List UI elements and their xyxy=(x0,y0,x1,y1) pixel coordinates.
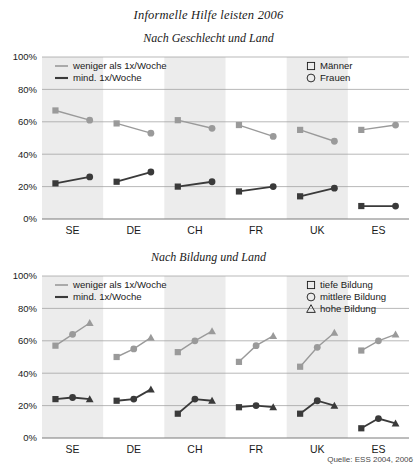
y-tick-label-40: 40% xyxy=(18,149,38,160)
y-tick-label-100: 100% xyxy=(13,51,38,62)
x-tick-label-FR: FR xyxy=(249,224,263,236)
data-point-low-ES-mittlere Bildung xyxy=(375,337,382,344)
x-tick-label-ES: ES xyxy=(371,443,385,455)
y-tick-label-0: 0% xyxy=(23,432,37,443)
data-point-low-CH-Frauen xyxy=(209,125,216,132)
data-point-high-ES-tiefe Bildung xyxy=(358,425,364,431)
data-point-low-SE-mittlere Bildung xyxy=(69,331,76,338)
series-line-low-ES xyxy=(361,125,395,130)
x-tick-label-UK: UK xyxy=(310,224,325,236)
series-line-low-FR xyxy=(239,125,273,136)
data-point-low-FR-tiefe Bildung xyxy=(236,359,242,365)
data-point-low-SE-Frauen xyxy=(86,117,93,124)
chart-education: 0%20%40%60%80%100%SEDECHFRUKESweniger al… xyxy=(0,269,417,459)
data-point-low-UK-Männer xyxy=(297,127,303,133)
data-point-high-ES-mittlere Bildung xyxy=(375,415,382,422)
chart-gender: 0%20%40%60%80%100%SEDECHFRUKESweniger al… xyxy=(0,50,417,240)
x-tick-label-ES: ES xyxy=(371,224,385,236)
data-point-high-UK-Männer xyxy=(297,193,303,199)
data-point-high-ES-Frauen xyxy=(392,203,399,210)
band-CH xyxy=(164,57,225,219)
data-point-high-ES-Männer xyxy=(358,203,364,209)
data-point-low-ES-hohe Bildung xyxy=(392,330,400,337)
data-point-high-SE-Männer xyxy=(52,180,58,186)
x-tick-label-SE: SE xyxy=(66,443,80,455)
y-tick-label-20: 20% xyxy=(18,181,38,192)
y-tick-label-80: 80% xyxy=(18,303,38,314)
chart-svg-chart-2: 0%20%40%60%80%100%SEDECHFRUKESweniger al… xyxy=(0,269,417,459)
page-title: Informelle Hilfe leisten 2006 xyxy=(0,8,417,23)
data-point-high-FR-tiefe Bildung xyxy=(236,404,242,410)
series-line-low-DE xyxy=(117,123,151,133)
data-point-high-UK-mittlere Bildung xyxy=(314,397,321,404)
data-point-high-DE-tiefe Bildung xyxy=(114,398,120,404)
panel-title-gender: Nach Geschlecht und Land xyxy=(0,31,417,46)
data-point-high-FR-Männer xyxy=(236,188,242,194)
data-point-high-DE-Frauen xyxy=(147,169,154,176)
data-point-high-DE-hohe Bildung xyxy=(147,386,155,393)
data-point-high-FR-mittlere Bildung xyxy=(253,402,260,409)
data-point-low-UK-Frauen xyxy=(331,138,338,145)
y-tick-label-80: 80% xyxy=(18,84,38,95)
data-point-low-DE-Männer xyxy=(114,120,120,126)
data-point-high-UK-Frauen xyxy=(331,185,338,192)
data-point-high-FR-Frauen xyxy=(270,183,277,190)
data-point-high-CH-tiefe Bildung xyxy=(175,411,181,417)
data-point-high-SE-Frauen xyxy=(86,173,93,180)
legend-label-low: weniger als 1x/Woche xyxy=(72,279,167,290)
legend-label-tiefe-bildung: tiefe Bildung xyxy=(320,279,373,290)
legend-label-m-nner: Männer xyxy=(320,60,353,71)
data-point-low-ES-Frauen xyxy=(392,122,399,129)
data-point-low-FR-Männer xyxy=(236,122,242,128)
x-axis-ticks: SEDECHFRUKES xyxy=(66,443,386,455)
x-tick-label-FR: FR xyxy=(249,443,263,455)
y-tick-label-20: 20% xyxy=(18,400,38,411)
data-point-high-CH-Frauen xyxy=(209,178,216,185)
data-point-high-SE-tiefe Bildung xyxy=(52,396,58,402)
data-point-low-CH-tiefe Bildung xyxy=(175,349,181,355)
data-point-low-UK-tiefe Bildung xyxy=(297,364,303,370)
y-tick-label-40: 40% xyxy=(18,368,38,379)
data-point-high-DE-mittlere Bildung xyxy=(130,396,137,403)
data-point-low-DE-tiefe Bildung xyxy=(114,354,120,360)
data-point-low-FR-mittlere Bildung xyxy=(253,342,260,349)
y-axis-ticks: 0%20%40%60%80%100% xyxy=(13,51,38,224)
y-tick-label-60: 60% xyxy=(18,116,38,127)
data-point-low-DE-Frauen xyxy=(147,130,154,137)
data-point-low-SE-Männer xyxy=(52,107,58,113)
data-point-low-SE-tiefe Bildung xyxy=(52,343,58,349)
data-point-low-ES-tiefe Bildung xyxy=(358,347,364,353)
legend-label-frauen: Frauen xyxy=(320,72,350,83)
y-axis-ticks: 0%20%40%60%80%100% xyxy=(13,270,38,443)
x-tick-label-UK: UK xyxy=(310,443,325,455)
data-point-low-DE-mittlere Bildung xyxy=(130,346,137,353)
data-point-low-CH-Männer xyxy=(175,117,181,123)
data-point-high-DE-Männer xyxy=(114,179,120,185)
x-tick-label-SE: SE xyxy=(66,224,80,236)
legend-label-hohe-bildung: hohe Bildung xyxy=(320,303,376,314)
y-tick-label-100: 100% xyxy=(13,270,38,281)
legend-label-high: mind. 1x/Woche xyxy=(73,291,142,302)
data-point-low-FR-Frauen xyxy=(270,133,277,140)
data-point-low-FR-hohe Bildung xyxy=(269,332,277,339)
legend-label-high: mind. 1x/Woche xyxy=(73,72,142,83)
series-line-high-FR xyxy=(239,187,273,192)
band-CH xyxy=(164,276,225,438)
data-point-high-SE-mittlere Bildung xyxy=(69,394,76,401)
legend-label-mittlere-bildung: mittlere Bildung xyxy=(320,291,386,302)
data-point-low-UK-mittlere Bildung xyxy=(314,344,321,351)
x-tick-label-DE: DE xyxy=(126,443,141,455)
legend-label-low: weniger als 1x/Woche xyxy=(72,60,167,71)
data-point-high-CH-Männer xyxy=(175,184,181,190)
chart-svg-chart-1: 0%20%40%60%80%100%SEDECHFRUKESweniger al… xyxy=(0,50,417,240)
source-note: Quelle: ESS 2004, 2006 xyxy=(327,455,413,464)
panel-title-education: Nach Bildung und Land xyxy=(0,250,417,265)
x-axis-ticks: SEDECHFRUKES xyxy=(66,224,386,236)
x-tick-label-CH: CH xyxy=(187,443,202,455)
data-point-low-CH-mittlere Bildung xyxy=(192,337,199,344)
data-point-high-CH-mittlere Bildung xyxy=(192,396,199,403)
x-tick-label-DE: DE xyxy=(126,224,141,236)
series-line-high-DE xyxy=(117,172,151,182)
data-point-high-UK-tiefe Bildung xyxy=(297,411,303,417)
data-point-low-DE-hohe Bildung xyxy=(147,334,155,341)
